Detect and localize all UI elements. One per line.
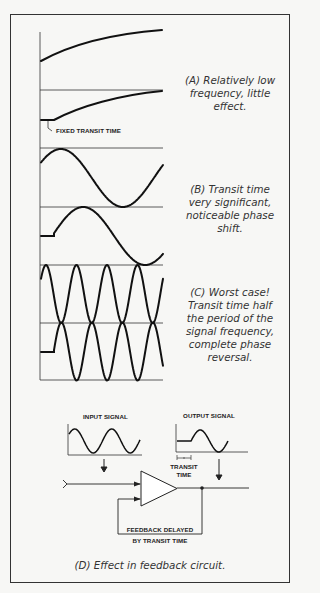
caption-b-line: noticeable phase (178, 209, 282, 222)
caption-c-line: (C) Worst case! (178, 286, 282, 299)
caption-c-line: the period of the (178, 312, 282, 325)
feedback-label-line1: FEEDBACK DELAYED (127, 526, 194, 533)
input-terminal (63, 480, 67, 488)
output-signal-label: OUTPUT SIGNAL (183, 412, 235, 419)
output-down-arrowhead (216, 475, 222, 480)
time-label: TIME (176, 471, 191, 478)
wave-b-output (41, 207, 163, 265)
amplifier-triangle (141, 471, 177, 506)
feedback-junction-dot (200, 486, 204, 490)
caption-c-line: signal frequency, (178, 325, 282, 338)
input-signal-label: INPUT SIGNAL (83, 413, 128, 420)
feedback-circuit: INPUT SIGNAL OUTPUT SIGNAL TRANSIT TIME (63, 412, 249, 544)
caption-a-line: effect. (178, 100, 282, 113)
caption-a: (A) Relatively low frequency, little eff… (178, 74, 282, 113)
wave-b-input (41, 149, 163, 207)
feedback-label-line2: BY TRANSIT TIME (132, 537, 187, 544)
fixed-transit-pointer (48, 121, 52, 131)
caption-a-line: (A) Relatively low (178, 74, 282, 87)
wave-c-input (41, 265, 163, 323)
wave-a-output (41, 91, 162, 120)
wave-a-input (41, 30, 162, 61)
fixed-transit-time-label: FIXED TRANSIT TIME (56, 127, 121, 134)
caption-d: (D) Effect in feedback circuit. (20, 559, 280, 572)
caption-b-line: (B) Transit time (178, 183, 282, 196)
wave-c-output (41, 323, 163, 381)
output-signal-wave (177, 430, 228, 452)
caption-b-line: shift. (178, 222, 282, 235)
caption-c-line: reversal. (178, 351, 282, 364)
input-arrowhead (134, 482, 141, 487)
caption-b-line: very significant, (178, 196, 282, 209)
caption-c: (C) Worst case! Transit time half the pe… (178, 286, 282, 364)
input-down-arrowhead (101, 467, 107, 472)
caption-c-line: complete phase (178, 338, 282, 351)
waveforms (41, 30, 163, 381)
transit-time-bracket (177, 455, 191, 460)
caption-a-line: frequency, little (178, 87, 282, 100)
caption-b: (B) Transit time very significant, notic… (178, 183, 282, 235)
input-signal-wave (69, 429, 140, 453)
feedback-arrowhead (134, 497, 141, 502)
caption-c-line: Transit time half (178, 299, 282, 312)
transit-label: TRANSIT (170, 463, 198, 470)
